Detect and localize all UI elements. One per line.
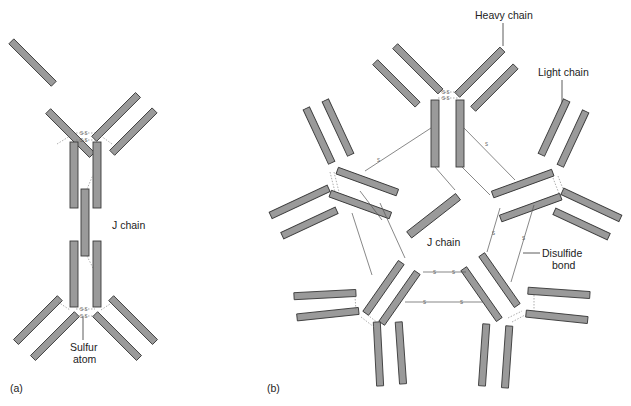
heavy-chain-stem — [501, 326, 512, 388]
heavy-chain-stem — [395, 322, 406, 384]
heavy-chain-stem — [373, 322, 383, 386]
svg-text:S-S: S-S — [80, 314, 88, 319]
light-chain-arm — [281, 207, 338, 239]
svg-text:S: S — [522, 236, 525, 241]
sulfur-label: Sulfur — [70, 341, 98, 353]
panel-a-dimer: S-S S-S J chain S-S S-S Sulfur — [9, 39, 158, 394]
light-chain-arm — [526, 310, 588, 323]
svg-text:S-S: S-S — [442, 90, 450, 95]
disulfide-label: Disulfide — [542, 247, 582, 259]
lower-right-monomer — [461, 253, 590, 388]
panel-a-label: (a) — [10, 382, 23, 394]
upper-right-monomer — [491, 99, 621, 240]
heavy-chain-arm — [336, 167, 399, 195]
heavy-chain-arm — [329, 190, 392, 218]
heavy-chain-arm — [363, 260, 404, 315]
light-chain-arm — [297, 307, 359, 320]
heavy-chain-label: Heavy chain — [475, 9, 533, 21]
heavy-chain-stem — [70, 142, 78, 208]
svg-text:S: S — [452, 270, 455, 275]
svg-text:S: S — [423, 300, 426, 305]
svg-text:S-S: S-S — [442, 96, 450, 101]
heavy-chain-stem — [93, 142, 101, 208]
svg-text:S-S: S-S — [80, 131, 88, 136]
light-chain-arm — [9, 39, 56, 86]
light-chain-arm — [294, 289, 356, 299]
heavy-chain-arm — [499, 193, 562, 221]
svg-text:S: S — [492, 231, 495, 236]
svg-text:S-S: S-S — [80, 138, 88, 143]
heavy-chain-arm — [379, 270, 420, 325]
svg-text:S: S — [377, 158, 380, 163]
panel-b-label: (b) — [267, 382, 280, 394]
heavy-chain-stem — [456, 100, 464, 167]
j-chain — [81, 189, 89, 256]
svg-text:S-S: S-S — [80, 307, 88, 312]
atom-label: atom — [73, 353, 97, 365]
bond-label: bond — [552, 259, 576, 271]
svg-text:S: S — [460, 300, 463, 305]
top-monomer: S-S S-S — [373, 44, 518, 167]
j-chain-label: J chain — [112, 219, 145, 231]
upper-left-monomer — [269, 99, 398, 239]
j-chain — [407, 194, 461, 238]
upper-monomer: S-S S-S — [9, 39, 157, 208]
light-chain-arm — [528, 287, 590, 298]
svg-text:S: S — [433, 270, 436, 275]
heavy-chain-stem — [478, 324, 489, 386]
light-chain-label: Light chain — [538, 66, 589, 78]
antibody-diagram: S-S S-S J chain S-S S-S Sulfur — [0, 0, 631, 406]
lower-left-monomer — [294, 260, 420, 386]
svg-text:S: S — [485, 142, 488, 147]
heavy-chain-arm — [491, 169, 554, 197]
heavy-chain-stem — [70, 241, 78, 307]
j-chain-label-b: J chain — [427, 236, 460, 248]
heavy-chain-stem — [431, 100, 439, 167]
heavy-chain-stem — [93, 241, 101, 307]
panel-b-pentamer: S-S S-S Heavy chain Light chain — [267, 9, 622, 394]
